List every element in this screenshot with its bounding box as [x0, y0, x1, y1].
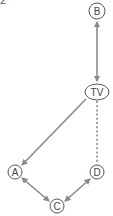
node-d: D [90, 165, 104, 179]
network-diagram: B TV A D C [0, 0, 113, 216]
edge-tv-a [22, 99, 86, 165]
node-c-label: C [53, 201, 60, 212]
node-a: A [8, 165, 22, 179]
node-c: C [50, 199, 64, 213]
node-b-label: B [94, 6, 101, 17]
edge-a-c [22, 178, 49, 201]
node-tv-label: TV [91, 87, 104, 98]
node-tv: TV [85, 84, 109, 100]
node-a-label: A [12, 167, 19, 178]
node-b: B [89, 3, 105, 19]
edge-c-d [65, 179, 90, 201]
node-d-label: D [93, 167, 100, 178]
